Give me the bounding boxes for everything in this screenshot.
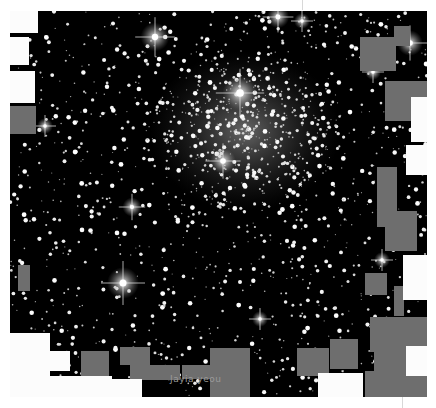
image-caption: Jayia yeou — [170, 374, 221, 384]
white-mask-region — [318, 373, 363, 397]
gray-mask-region — [210, 348, 250, 397]
gray-mask-region — [385, 211, 417, 251]
gray-mask-region — [394, 26, 410, 46]
frame-tick — [402, 397, 403, 408]
gray-mask-region — [10, 106, 36, 134]
bright-star — [101, 261, 145, 305]
white-mask-region — [406, 145, 427, 175]
white-mask-region — [112, 379, 142, 397]
gray-mask-region — [18, 265, 30, 291]
bright-star — [119, 194, 145, 220]
bright-star — [263, 11, 294, 32]
gray-mask-region — [81, 351, 109, 376]
white-mask-region — [403, 255, 427, 300]
gray-mask-region — [330, 339, 358, 369]
gray-mask-region — [360, 37, 396, 71]
frame-tick — [302, 0, 303, 10]
bright-star — [291, 11, 313, 32]
white-mask-region — [10, 11, 38, 33]
gray-mask-region — [374, 352, 406, 372]
white-mask-region — [10, 37, 29, 65]
white-mask-region — [50, 351, 70, 371]
white-mask-region — [32, 376, 112, 397]
white-mask-region — [10, 71, 35, 103]
bright-star — [371, 249, 393, 271]
star-field-image — [10, 11, 427, 397]
bright-star — [249, 308, 271, 330]
white-mask-region — [406, 346, 427, 376]
gray-mask-region — [297, 348, 329, 376]
gray-mask-region — [365, 273, 387, 295]
gray-mask-region — [120, 347, 150, 365]
white-mask-region — [411, 97, 427, 142]
